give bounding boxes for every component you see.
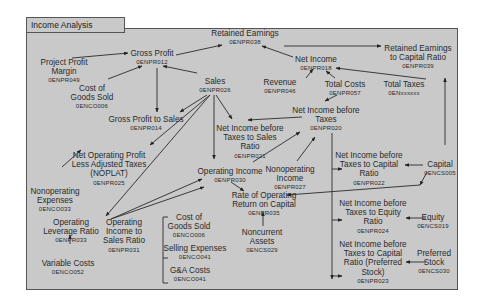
node-noncurrent-assets: Noncurrent Assets0ENCS029 [242, 228, 283, 254]
node-rate-of-operating-return-on-capital: Rate of Operating Return on Capital0ENPR… [232, 191, 297, 217]
node-gross-profit-to-sales: Gross Profit to Sales0ENPR014 [108, 115, 183, 132]
node-operating-leverage-ratio: Operating Leverage Ratio0ENPR033 [43, 218, 99, 244]
node-nonoperating-expenses: Nonoperating Expenses0ENCO033 [30, 187, 79, 213]
node-retained-earnings-to-capital-ratio: Retained Earnings to Capital Ratio0ENPR0… [384, 44, 451, 70]
node-total-taxes: Total Taxes0ENxxxxxx [384, 80, 425, 97]
node-project-profit-margin: Project Profit Margin0ENPR049 [41, 58, 88, 84]
node-equity: Equity0ENCS019 [417, 213, 449, 230]
node-nibt-to-sales-ratio: Net Income before Taxes to Sales Ratio0E… [216, 124, 283, 160]
node-preferred-stock: Preferred Stock0ENCS030 [417, 249, 451, 275]
node-revenue: Revenue0ENPR046 [264, 78, 297, 95]
node-net-income-before-taxes: Net Income before Taxes0ENPR020 [292, 106, 359, 132]
node-nonoperating-income: Nonoperating Income0ENPR027 [265, 165, 314, 191]
node-ga-costs: G&A Costs0ENCO041 [170, 266, 210, 283]
node-cost-of-goods-sold-top: Cost of Goods Sold0ENCO006 [71, 84, 114, 110]
node-noplat: Net Operating Profit Less Adjusted Taxes… [72, 151, 147, 187]
node-nibt-to-capital-ratio: Net Income before Taxes to Capital Ratio… [335, 151, 402, 187]
node-nibt-to-equity-ratio: Net Income before Taxes to Equity Ratio0… [339, 199, 406, 235]
node-selling-expenses: Selling Expenses0ENCO041 [164, 244, 227, 261]
node-total-costs: Total Costs0ENPR057 [325, 80, 366, 97]
node-net-income: Net Income0ENPR018 [295, 55, 337, 72]
node-operating-income-to-sales-ratio: Operating Income to Sales Ratio0ENPR031 [103, 218, 145, 254]
node-nibt-to-capital-ratio-preferred: Net Income before Taxes to Capital Ratio… [339, 240, 406, 285]
node-gross-profit: Gross Profit0ENPR012 [130, 49, 173, 66]
node-cost-of-goods-sold-bottom: Cost of Goods Sold0ENCO006 [168, 213, 211, 239]
node-retained-earnings: Retained Earnings0ENPR038 [211, 29, 278, 46]
node-capital: Capital0ENCS005 [424, 160, 456, 177]
node-operating-income: Operating Income0ENPR030 [197, 167, 262, 184]
node-sales: Sales0ENPR026 [199, 77, 231, 94]
node-variable-costs: Variable Costs0ENCO052 [42, 259, 95, 276]
